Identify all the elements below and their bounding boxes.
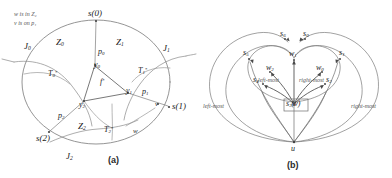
arc-j0-outer	[2, 59, 14, 62]
label-z1: Z1	[116, 38, 124, 48]
dot-s4	[262, 83, 264, 85]
label-b-s5: s5	[243, 49, 249, 58]
label-p1: p1	[142, 88, 148, 97]
label-outer-left-most: left-most	[203, 103, 224, 109]
label-b-s6: s6	[280, 30, 286, 39]
label-p0: p0	[98, 48, 104, 57]
label-b-s1: s1	[339, 49, 345, 58]
label-outer-right-most: right-most	[351, 103, 376, 109]
label-b-s2: s2	[326, 76, 332, 85]
label-j0: J0	[24, 42, 31, 52]
label-f-star: f*	[100, 78, 105, 86]
arrowhead-s2	[320, 85, 324, 89]
annotation-w-in-z2: w is in Z₂	[14, 11, 37, 17]
label-t0-star: T0*	[48, 70, 57, 79]
label-p2: p2	[58, 112, 64, 121]
label-t2-star: T2*	[104, 126, 113, 135]
dot-s1	[168, 106, 170, 108]
curve-z2-inner	[84, 101, 112, 128]
arrowhead-s1	[335, 60, 339, 64]
dot-w1	[293, 59, 295, 61]
radius-p0	[95, 21, 96, 63]
label-z0: Z0	[56, 38, 64, 48]
label-j1: J1	[163, 44, 170, 54]
label-v: v	[155, 101, 158, 108]
label-t1-star: T1*	[138, 67, 147, 76]
label-s2: s(2)	[36, 134, 50, 143]
label-w: w	[133, 128, 138, 135]
panel-a-disc	[22, 20, 170, 144]
triangle-f-star	[84, 66, 128, 101]
lobe-outer-left	[209, 32, 294, 142]
label-b-s3-v: s3(v)	[286, 100, 301, 109]
label-b-w0: w0	[316, 64, 324, 73]
label-inner-left-most: left-most	[258, 77, 279, 83]
label-inner-right-most: right-most	[299, 77, 324, 83]
annotation-v-on-p1: v is on p₁	[14, 20, 36, 26]
dot-s0	[95, 20, 97, 22]
label-b-u: u	[291, 145, 295, 153]
dot-s5	[248, 58, 250, 60]
arc-j1-outer	[186, 54, 196, 56]
label-y1: y1	[126, 87, 132, 96]
label-y2: y2	[79, 101, 85, 110]
lobe-inner-left	[248, 46, 294, 102]
caption-panel-a: (a)	[108, 155, 119, 165]
arrowhead-s4	[264, 85, 268, 89]
dot-u	[293, 141, 295, 143]
label-b-w1: w1	[289, 50, 297, 59]
label-s1: s(1)	[172, 102, 186, 111]
arc-j2	[50, 120, 138, 142]
label-y0: y0	[94, 61, 100, 70]
label-b-w2: w2	[266, 64, 274, 73]
label-s0: s(0)	[88, 9, 102, 18]
dot-s1b	[339, 58, 341, 60]
figure-canvas	[0, 0, 392, 178]
curve-t0	[24, 72, 70, 84]
label-z2: Z2	[78, 122, 86, 132]
label-b-s0: s0	[303, 30, 309, 39]
caption-panel-b: (b)	[287, 160, 299, 170]
label-j2: J2	[66, 152, 73, 162]
